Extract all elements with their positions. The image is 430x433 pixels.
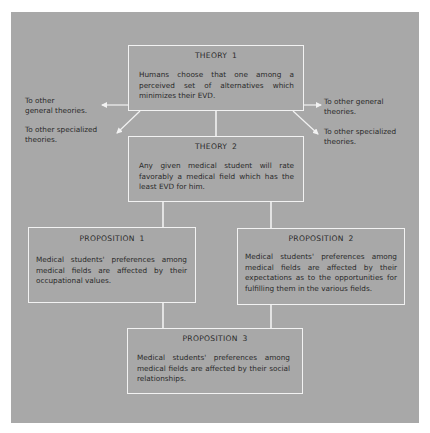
- proposition3-body: Medical students' preferences among medi…: [137, 353, 290, 385]
- proposition1-box: PROPOSITION 1 Medical students' preferen…: [28, 227, 196, 303]
- theory1-body: Humans choose that one among a perceived…: [139, 70, 294, 102]
- proposition2-body: Medical students' preferences among medi…: [245, 252, 397, 295]
- label-right-general-line2: theories.: [324, 107, 384, 117]
- proposition2-box: PROPOSITION 2 Medical students' preferen…: [237, 228, 405, 305]
- proposition1-body: Medical students' preferences among medi…: [36, 255, 187, 287]
- label-left-specialized-line1: To other specialized: [25, 125, 97, 135]
- proposition2-title: PROPOSITION 2: [238, 234, 404, 243]
- label-right-specialized-line2: theories.: [324, 137, 396, 147]
- proposition3-box: PROPOSITION 3 Medical students' preferen…: [127, 328, 303, 394]
- label-right-specialized-line1: To other specialized: [324, 127, 396, 137]
- label-left-specialized-line2: theories.: [25, 135, 97, 145]
- label-left-general-line2: general theories.: [25, 106, 87, 116]
- theory1-box: THEORY 1 Humans choose that one among a …: [128, 45, 304, 111]
- label-left-specialized: To other specialized theories.: [25, 125, 97, 145]
- proposition3-title: PROPOSITION 3: [128, 334, 302, 343]
- theory2-body: Any given medical student will rate favo…: [139, 161, 294, 193]
- proposition1-title: PROPOSITION 1: [29, 234, 195, 243]
- theory1-title: THEORY 1: [129, 51, 303, 60]
- label-right-general: To other general theories.: [324, 97, 384, 117]
- label-left-general-line1: To other: [25, 96, 87, 106]
- label-right-specialized: To other specialized theories.: [324, 127, 396, 147]
- theory2-box: THEORY 2 Any given medical student will …: [128, 136, 304, 202]
- theory2-title: THEORY 2: [129, 142, 303, 151]
- label-right-general-line1: To other general: [324, 97, 384, 107]
- label-left-general: To other general theories.: [25, 96, 87, 116]
